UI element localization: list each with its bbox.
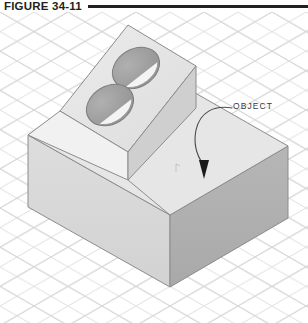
figure-page: FIGURE 34-11 bbox=[0, 0, 308, 323]
object-callout-label: OBJECT bbox=[233, 101, 273, 111]
drawing-canvas bbox=[0, 12, 308, 323]
isometric-drawing bbox=[0, 12, 308, 323]
header-rule bbox=[88, 5, 308, 8]
figure-caption: FIGURE 34-11 bbox=[4, 1, 82, 12]
